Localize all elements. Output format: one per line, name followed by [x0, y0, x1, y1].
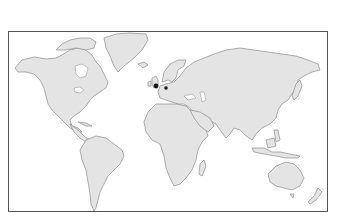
south-america [80, 136, 124, 211]
world-map: LondonWestern Europe (Netherlands/German… [0, 0, 338, 216]
new-zealand [308, 188, 322, 204]
australia [268, 162, 304, 190]
borneo [266, 138, 276, 148]
indonesia [252, 148, 300, 158]
iceland [138, 62, 148, 68]
madagascar [199, 160, 206, 176]
map-marker[interactable]: Western Europe (Netherlands/Germany) [164, 86, 168, 90]
map-marker[interactable]: London [154, 84, 159, 89]
cuba [78, 122, 92, 126]
arctic-islands [56, 38, 96, 50]
ireland [148, 81, 151, 86]
north-america [15, 48, 108, 132]
tasmania [290, 194, 294, 198]
